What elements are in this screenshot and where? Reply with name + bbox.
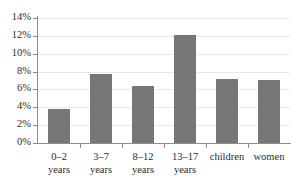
y-tick-mark xyxy=(33,89,38,90)
x-tick-mark xyxy=(206,144,207,148)
gridline xyxy=(38,125,290,126)
bar-chart: 0%2%4%6%8%10%12%14% 0–2years3–7years8–12… xyxy=(0,0,296,183)
bar xyxy=(48,109,70,143)
y-tick-mark xyxy=(33,107,38,108)
bar xyxy=(132,86,154,143)
x-tick-mark xyxy=(164,144,165,148)
category-label-line1: 0–2 xyxy=(51,151,67,162)
y-tick-label: 6% xyxy=(0,82,31,93)
x-tick-mark xyxy=(80,144,81,148)
category-label-line2: years xyxy=(160,163,210,176)
y-tick-mark xyxy=(33,143,38,144)
bar xyxy=(216,79,238,143)
gridline xyxy=(38,107,290,108)
y-tick-label: 0% xyxy=(0,136,31,147)
bar xyxy=(258,80,280,143)
y-tick-label: 14% xyxy=(0,11,31,22)
category-label-line1: 8–12 xyxy=(133,151,154,162)
gridline xyxy=(38,89,290,90)
gridline xyxy=(38,18,290,19)
category-label-line1: women xyxy=(254,151,285,162)
y-tick-mark xyxy=(33,54,38,55)
y-tick-label: 4% xyxy=(0,100,31,111)
bar xyxy=(174,35,196,143)
y-tick-label: 12% xyxy=(0,29,31,40)
y-tick-label: 10% xyxy=(0,47,31,58)
category-label-line1: 3–7 xyxy=(93,151,109,162)
y-tick-label: 8% xyxy=(0,65,31,76)
gridline xyxy=(38,54,290,55)
x-tick-mark xyxy=(122,144,123,148)
plot-area xyxy=(38,18,290,143)
category-label-line1: 13–17 xyxy=(172,151,198,162)
gridline xyxy=(38,36,290,37)
bar xyxy=(90,74,112,143)
y-tick-mark xyxy=(33,72,38,73)
y-tick-mark xyxy=(33,36,38,37)
gridline xyxy=(38,72,290,73)
x-tick-mark xyxy=(248,144,249,148)
category-label-line1: children xyxy=(210,151,244,162)
x-category-label: women xyxy=(244,150,294,163)
y-tick-mark xyxy=(33,125,38,126)
y-tick-mark xyxy=(33,18,38,19)
y-tick-label: 2% xyxy=(0,118,31,129)
